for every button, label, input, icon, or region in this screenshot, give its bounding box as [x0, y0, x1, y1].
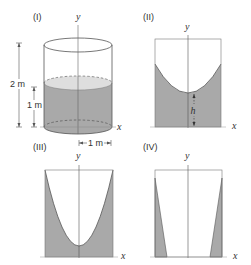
height-dimension-2m: 2 m [10, 43, 28, 127]
panel-ii-label: (II) [143, 12, 154, 22]
svg-text:1 m: 1 m [88, 138, 103, 148]
panel-iv-x-axis-label: x [232, 250, 238, 261]
panel-iv: (IV) y x [143, 142, 238, 261]
panel-iv-y-axis-label: y [184, 150, 190, 161]
panel-i: (I) y x 2 m [10, 11, 122, 148]
panel-iii-label: (III) [33, 142, 47, 152]
radius-dimension-1m: 1 m [79, 138, 111, 148]
panel-iv-water-left [155, 178, 167, 257]
panel-ii-x-axis-label: x [231, 120, 237, 131]
svg-text:1 m: 1 m [27, 100, 42, 110]
panel-i-label: (I) [33, 12, 42, 22]
panel-iii-y-axis-label: y [75, 150, 81, 161]
panel-iii: (III) y x [33, 142, 126, 261]
panel-i-x-axis-label: x [116, 121, 122, 132]
panel-i-y-axis-label: y [75, 11, 81, 22]
diagram-canvas: (I) y x 2 m [0, 0, 251, 265]
water-level-dimension-1m: 1 m [26, 87, 43, 127]
panel-ii: (II) y x h [143, 12, 237, 131]
panel-iv-label: (IV) [143, 142, 158, 152]
panel-ii-y-axis-label: y [184, 21, 190, 32]
svg-text:h: h [191, 105, 196, 116]
svg-text:2 m: 2 m [10, 79, 25, 89]
panel-iv-water-right [210, 178, 222, 257]
panel-iii-x-axis-label: x [120, 250, 126, 261]
